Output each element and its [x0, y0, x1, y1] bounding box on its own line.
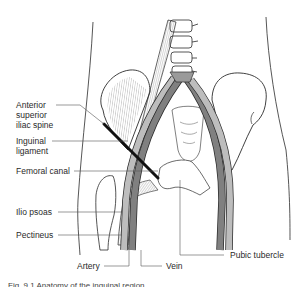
left-body-outline: [78, 22, 93, 255]
label-inguinal-ligament: Inguinal ligament: [16, 136, 48, 156]
label-pectineus: Pectineus: [16, 230, 53, 240]
label-anterior-superior-iliac-spine: Anterior superior iliac spine: [16, 100, 53, 130]
anatomy-diagram: Anterior superior iliac spine Inguinal l…: [0, 0, 306, 287]
left-femur: [96, 176, 116, 250]
sacrum: [172, 106, 204, 161]
label-femoral-canal: Femoral canal: [16, 166, 70, 176]
label-ilio-psoas: Ilio psoas: [16, 207, 52, 217]
label-line: Anterior: [16, 100, 53, 110]
label-line: iliac spine: [16, 120, 53, 130]
label-vein: Vein: [166, 261, 183, 271]
label-artery: Artery: [77, 261, 100, 271]
label-line: ligament: [16, 146, 48, 156]
figure-caption: Fig. 9.1 Anatomy of the inguinal region: [8, 281, 145, 287]
label-line: superior: [16, 110, 53, 120]
label-line: Inguinal: [16, 136, 48, 146]
label-pubic-tubercle: Pubic tubercle: [230, 250, 284, 260]
pubic-bone: [158, 160, 210, 195]
right-body-outline: [266, 17, 290, 240]
